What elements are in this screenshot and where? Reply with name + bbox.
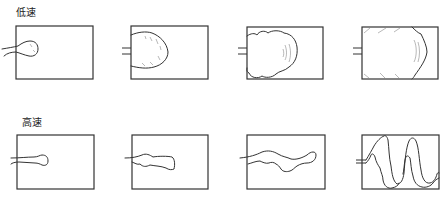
high-speed-stage-4: [356, 135, 439, 189]
high-speed-stage-2: [125, 135, 208, 189]
fill-diagram: [0, 0, 446, 199]
low-speed-stage-1: [2, 26, 93, 79]
low-speed-stage-2: [122, 26, 208, 79]
high-speed-stage-3: [240, 135, 325, 189]
high-speed-stage-1: [11, 135, 94, 189]
low-speed-stage-4: [353, 27, 438, 79]
low-speed-stage-3: [238, 27, 323, 79]
